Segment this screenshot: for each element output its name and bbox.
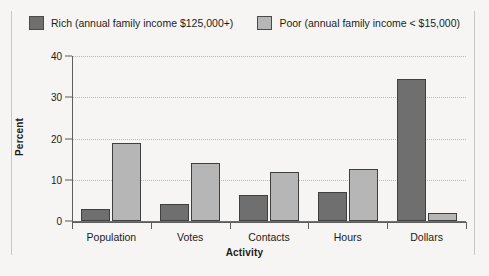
x-axis-tick-label: Hours — [308, 231, 387, 243]
bar — [318, 192, 347, 221]
x-axis-tick-mark — [151, 222, 152, 229]
bar — [81, 209, 110, 221]
bar-group — [308, 56, 387, 221]
legend-swatch-poor — [257, 16, 272, 30]
bar-groups — [72, 56, 466, 221]
legend-item-rich: Rich (annual family income $125,000+) — [29, 16, 233, 30]
y-axis-tick-label: 0 — [38, 216, 62, 227]
bar — [428, 213, 457, 221]
y-axis-tick-label: 30 — [38, 92, 62, 103]
x-axis-tick-label: Dollars — [387, 231, 466, 243]
x-axis-tick-label: Population — [72, 231, 151, 243]
bar — [239, 195, 268, 221]
x-axis-tick-mark — [72, 222, 73, 229]
y-axis-title: Percent — [14, 118, 25, 156]
bar — [270, 172, 299, 222]
x-axis-tick-mark — [230, 222, 231, 229]
x-axis-tick-label: Contacts — [230, 231, 309, 243]
legend-label-rich: Rich (annual family income $125,000+) — [51, 17, 233, 29]
x-axis-title: Activity — [0, 247, 489, 258]
y-axis-tick-mark — [65, 179, 72, 180]
y-axis-tick-label: 20 — [38, 133, 62, 144]
bar — [191, 163, 220, 221]
x-axis-line — [72, 222, 466, 223]
y-axis-tick-mark — [65, 221, 72, 222]
bar-group — [387, 56, 466, 221]
bar-group — [72, 56, 151, 221]
y-axis-tick-mark — [65, 56, 72, 57]
x-axis-tick-mark — [466, 222, 467, 229]
bar — [397, 79, 426, 221]
x-axis-tick-mark — [308, 222, 309, 229]
y-axis-tick-mark — [65, 138, 72, 139]
x-axis-tick-mark — [387, 222, 388, 229]
legend-item-poor: Poor (annual family income < $15,000) — [257, 16, 460, 30]
bar — [112, 143, 141, 221]
chart-legend: Rich (annual family income $125,000+) Po… — [0, 16, 489, 30]
bar-group — [151, 56, 230, 221]
bar-group — [230, 56, 309, 221]
legend-label-poor: Poor (annual family income < $15,000) — [279, 17, 460, 29]
y-axis-tick-label: 40 — [38, 51, 62, 62]
bar — [160, 204, 189, 221]
bar — [349, 169, 378, 221]
y-axis-tick-mark — [65, 97, 72, 98]
plot-area: Percent 010203040 PopulationVotesContact… — [0, 48, 489, 276]
y-axis-ticks: 010203040 — [40, 56, 72, 221]
legend-swatch-rich — [29, 16, 44, 30]
x-axis-tick-labels: PopulationVotesContactsHoursDollars — [72, 231, 466, 243]
x-axis-tick-label: Votes — [151, 231, 230, 243]
y-axis-tick-label: 10 — [38, 174, 62, 185]
